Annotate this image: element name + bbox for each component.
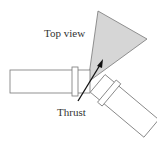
top-view-label: Top view: [44, 27, 85, 39]
thrust-label: Thrust: [57, 106, 86, 118]
left-nozzle-collar: [72, 67, 78, 96]
right-nozzle-cylinder: [88, 72, 157, 139]
thruster-diagram: Top view Thrust: [0, 0, 157, 147]
left-nozzle-cylinder: [10, 67, 90, 96]
